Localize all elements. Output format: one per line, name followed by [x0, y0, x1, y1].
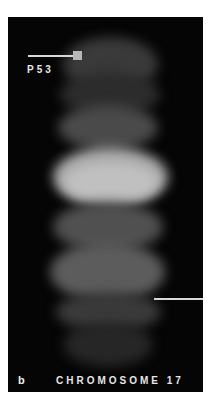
p53-signal-marker [73, 51, 82, 60]
panel-letter: b [18, 374, 25, 386]
p53-label: P53 [27, 64, 54, 75]
right-pointer-line [154, 298, 203, 300]
chromosome-band [58, 105, 158, 150]
caption-fragment [8, 396, 58, 402]
chromosome-image-panel: P53 b CHROMOSOME 17 [8, 17, 203, 392]
chromosome-centromere-core [63, 162, 158, 202]
figure-title: CHROMOSOME 17 [56, 375, 184, 386]
chromosome-q-arm-tip [63, 322, 153, 367]
